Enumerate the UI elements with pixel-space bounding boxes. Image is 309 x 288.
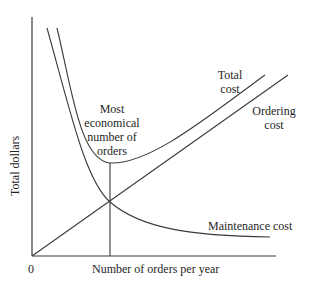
maintenance-cost-label: Maintenance cost <box>208 219 292 233</box>
eoq-chart: Most economical number of orders Total c… <box>0 0 309 288</box>
maintenance-cost-curve <box>47 28 270 237</box>
eoq-label-line4: orders <box>84 144 140 158</box>
ordering-cost-label-line2: cost <box>249 118 299 132</box>
ordering-cost-label: Ordering cost <box>249 104 299 132</box>
total-cost-label-line2: cost <box>212 82 248 96</box>
origin-label: 0 <box>28 262 34 276</box>
eoq-label: Most economical number of orders <box>84 102 140 158</box>
total-cost-label: Total cost <box>212 68 248 96</box>
eoq-label-line1: Most <box>84 102 140 116</box>
eoq-label-line3: number of <box>84 130 140 144</box>
eoq-label-line2: economical <box>84 116 140 130</box>
y-axis-label: Total dollars <box>8 136 23 196</box>
total-cost-label-line1: Total <box>212 68 248 82</box>
ordering-cost-label-line1: Ordering <box>249 104 299 118</box>
x-axis-label: Number of orders per year <box>92 262 219 276</box>
chart-canvas <box>0 0 309 288</box>
